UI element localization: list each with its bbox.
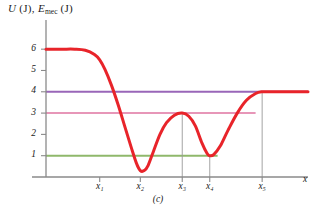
y-tick-label-1: 1 (24, 149, 36, 159)
x-tick-label-x1: x₁ (90, 181, 110, 191)
y-tick-label-5: 5 (24, 64, 36, 74)
x-tick-label-x3: x₃ (172, 181, 192, 191)
axes-group (32, 20, 308, 177)
droplines-group (182, 92, 262, 177)
curve-u(x) (46, 49, 308, 171)
data-series-group (46, 49, 308, 171)
x-axis-label: x (303, 174, 307, 184)
x-tick-label-x5: x₅ (252, 181, 272, 191)
y-tick-label-4: 4 (24, 85, 36, 95)
y-axis-ticks-group (41, 49, 46, 156)
plot-canvas (0, 0, 316, 211)
potential-energy-figure: U (J), Emec (J) 123456 x₁x₂x₃x₄x₅ x (c) (0, 0, 316, 211)
x-tick-label-x2: x₂ (130, 181, 150, 191)
x-tick-label-x4: x₄ (200, 181, 220, 191)
y-tick-label-6: 6 (24, 43, 36, 53)
y-tick-label-3: 3 (24, 107, 36, 117)
y-tick-label-2: 2 (24, 128, 36, 138)
figure-caption: (c) (0, 194, 316, 204)
reference-lines-group (46, 92, 308, 156)
